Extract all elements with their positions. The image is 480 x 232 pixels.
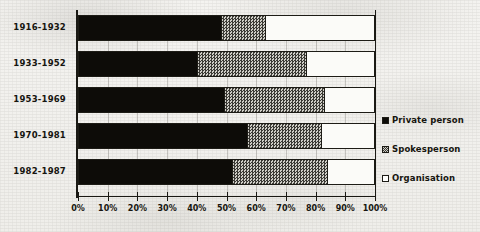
bar-segment-org (324, 88, 374, 112)
stacked-bar-chart: 1916-19321933-19521953-19691970-19811982… (0, 0, 480, 232)
x-axis-tick (108, 192, 109, 201)
bar-segment-priv (79, 124, 247, 148)
x-axis-tick (286, 192, 287, 201)
bar-segment-spoke (247, 124, 321, 148)
y-axis-line (76, 10, 78, 198)
x-axis-tick (316, 192, 317, 201)
bar-segment-spoke (224, 88, 324, 112)
bar-segment-priv (79, 16, 221, 40)
legend-swatch-org (382, 175, 389, 182)
x-axis-tick (78, 192, 79, 201)
legend-item-priv: Private person (382, 115, 464, 125)
legend-item-spoke: Spokesperson (382, 144, 461, 154)
x-axis-tick (227, 192, 228, 201)
bar-row (78, 87, 375, 113)
legend-label: Private person (392, 115, 464, 125)
legend-swatch-spoke (382, 146, 389, 153)
bar-segment-org (265, 16, 374, 40)
y-axis-category-label: 1982-1987 (0, 166, 66, 176)
bar-segment-org (327, 160, 374, 184)
x-axis-tick (137, 192, 138, 201)
x-axis-tick (256, 192, 257, 201)
bar-segment-org (321, 124, 374, 148)
legend-label: Spokesperson (392, 144, 461, 154)
legend-label: Organisation (392, 173, 455, 183)
bar-row (78, 51, 375, 77)
y-axis-category-label: 1916-1932 (0, 22, 66, 32)
bar-row (78, 159, 375, 185)
y-axis-category-label: 1970-1981 (0, 130, 66, 140)
bar-segment-priv (79, 160, 232, 184)
x-axis-tick (167, 192, 168, 201)
bar-segment-spoke (197, 52, 306, 76)
legend-swatch-priv (382, 117, 389, 124)
plot-right-border (375, 10, 376, 198)
x-axis-tick (375, 192, 376, 201)
x-axis-tick (345, 192, 346, 201)
bar-segment-priv (79, 88, 224, 112)
bar-row (78, 123, 375, 149)
bar-segment-spoke (221, 16, 265, 40)
bar-segment-org (306, 52, 374, 76)
x-axis-tick-label: 100% (355, 204, 395, 213)
bar-segment-spoke (232, 160, 326, 184)
bar-segment-priv (79, 52, 197, 76)
x-axis-tick (197, 192, 198, 201)
legend-item-org: Organisation (382, 173, 455, 183)
y-axis-category-label: 1953-1969 (0, 94, 66, 104)
bar-row (78, 15, 375, 41)
y-axis-category-label: 1933-1952 (0, 58, 66, 68)
